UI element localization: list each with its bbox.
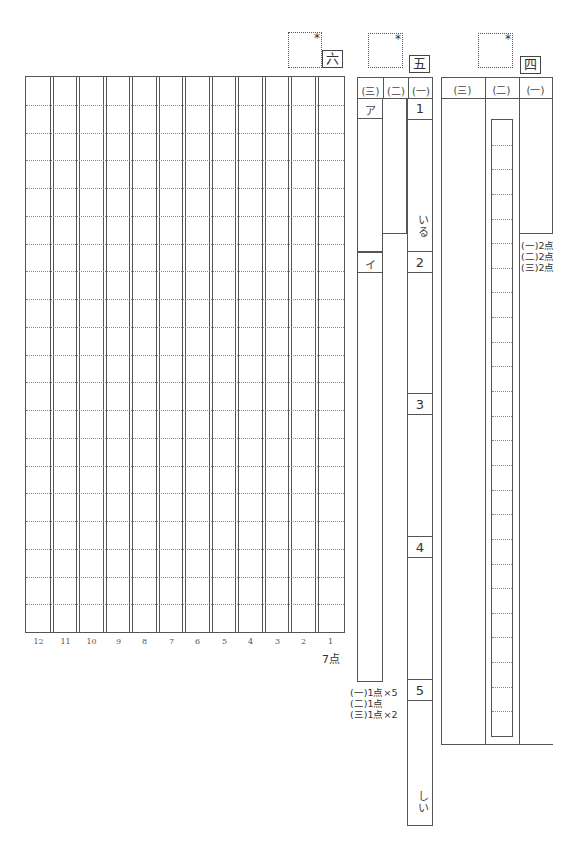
row-guide [492,243,512,244]
row-guide [26,438,344,439]
q1-answer-2[interactable] [408,274,432,392]
header-q1: (一) [519,82,552,97]
column-number: 1 [317,637,344,646]
q1-answer-yon[interactable] [519,99,553,234]
row-guide [492,637,512,638]
row-guide [492,145,512,146]
row-guide [26,521,344,522]
column-number: 11 [52,637,79,646]
header-q3: (三) [358,83,383,98]
row-guide [492,564,512,565]
q1-suffix-5: しい [414,790,430,814]
row-guide [26,299,344,300]
q1-answer-4[interactable] [408,559,432,679]
grid-rows [492,120,512,736]
row-guide [492,588,512,589]
row-guide [492,539,512,540]
header-q2: (二) [485,82,518,97]
answer-grid-roku[interactable] [25,76,345,633]
score-mark: * [395,32,401,46]
row-guide [26,105,344,106]
row-guide [492,613,512,614]
header-q3: (三) [441,82,484,97]
row-guide [26,133,344,134]
row-guide [492,465,512,466]
grid-rows [26,77,344,632]
row-guide [492,219,512,220]
score-q1: (一)1点×5 [350,687,397,698]
row-guide [492,514,512,515]
column-number: 12 [25,637,52,646]
score-mark: * [314,31,320,45]
row-guide [492,687,512,688]
score-box-go[interactable]: * [368,33,403,68]
q3-label-a: ア [357,98,383,119]
q3-answer-a[interactable] [357,118,383,252]
score-notes-yon: (一)2点 (二)2点 (三)2点 [521,240,554,273]
row-guide [492,268,512,269]
row-guide [492,490,512,491]
column-number: 10 [78,637,105,646]
row-guide [492,366,512,367]
row-guide [26,271,344,272]
q1-answer-3[interactable] [408,416,432,536]
row-guide [26,327,344,328]
row-guide [492,317,512,318]
row-guide [26,549,344,550]
q3-answer-yon[interactable] [442,99,485,744]
score-q3: (三)2点 [521,262,554,273]
row-guide [26,466,344,467]
score-notes-go: (一)1点×5 (二)1点 (三)1点×2 [350,687,397,720]
header-row-go: (三) (二) (一) [357,77,433,99]
row-guide [492,662,512,663]
row-guide [26,493,344,494]
row-guide [492,194,512,195]
score-q2: (二)1点 [350,698,397,709]
q1-item-2: 2 [408,251,432,273]
row-guide [492,292,512,293]
column-number: 3 [264,637,291,646]
q1-column-go: 1 いる 2 3 4 5 しい [407,98,433,826]
row-guide [26,577,344,578]
score-roku: 7点 [322,654,340,665]
row-guide [492,440,512,441]
score-box-roku[interactable]: * [288,32,322,68]
q2-answer-yon[interactable] [491,119,513,737]
row-guide [26,216,344,217]
row-guide [492,391,512,392]
section-label-go: 五 [409,55,430,73]
q1-item-4: 4 [408,536,432,558]
column-numbers: 121110987654321 [25,637,345,649]
q3-answer-i[interactable] [357,272,383,682]
column-number: 5 [211,637,238,646]
row-guide [26,355,344,356]
q1-item-3: 3 [408,393,432,415]
score-box-yon[interactable]: * [478,33,513,68]
column-number: 6 [184,637,211,646]
row-guide [492,169,512,170]
row-guide [26,382,344,383]
column-number: 9 [105,637,132,646]
column-number: 8 [131,637,158,646]
row-guide [492,342,512,343]
q1-item-5: 5 [408,679,432,701]
score-q2: (二)2点 [521,251,554,262]
section-label-yon: 四 [520,56,541,74]
row-guide [492,711,512,712]
column-number: 4 [237,637,264,646]
row-guide [26,160,344,161]
header-row-yon: (三) (二) (一) [441,77,553,99]
header-q1: (一) [409,83,433,98]
score-q1: (一)2点 [521,240,554,251]
section-label-roku: 六 [322,50,343,68]
divider [441,744,520,745]
q2-answer-go[interactable] [383,98,407,234]
row-guide [26,604,344,605]
q1-suffix-1: いる [414,214,430,238]
row-guide [26,244,344,245]
column-number: 2 [290,637,317,646]
row-guide [26,188,344,189]
header-q2: (二) [384,83,408,98]
row-guide [26,410,344,411]
column-number: 7 [158,637,185,646]
